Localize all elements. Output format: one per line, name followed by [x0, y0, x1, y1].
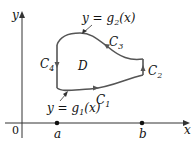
c3-label: C3 [109, 35, 123, 51]
point-a-label: a [54, 127, 61, 141]
lower-function-label: y = g1(x) [46, 101, 101, 117]
c4-label: C4 [40, 57, 54, 73]
origin-label: 0 [12, 124, 19, 137]
region-diagram: y x 0 a b C4 C1 C2 C3 D y = g2(x) y = g1… [0, 0, 195, 153]
point-b [140, 121, 145, 126]
c1-direction-arrow-icon [93, 86, 99, 91]
c2-label: C2 [148, 64, 162, 80]
y-axis-arrow-icon [19, 11, 25, 18]
c4-direction-arrow-icon [55, 62, 60, 68]
point-b-label: b [139, 127, 147, 141]
point-a [55, 121, 60, 126]
c2-direction-arrow-icon [141, 65, 146, 71]
y-axis-label: y [11, 8, 19, 22]
curve-c1 [57, 75, 143, 90]
curve-c3 [57, 33, 143, 60]
region-label: D [77, 59, 88, 73]
upper-function-label: y = g2(x) [81, 11, 136, 27]
x-axis-label: x [184, 123, 191, 137]
